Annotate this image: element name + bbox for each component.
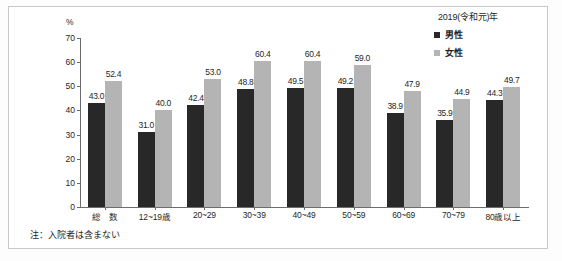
bar-value-label: 42.4 <box>188 93 203 103</box>
bar-pair: 38.947.9 <box>387 91 421 207</box>
bar-male[interactable]: 38.9 <box>387 113 404 207</box>
bar-value-label: 43.0 <box>89 91 104 101</box>
bar-pair: 31.040.0 <box>138 110 172 207</box>
x-axis-tick-label: 70~79 <box>442 210 465 220</box>
bar-group: 48.860.430~39 <box>229 38 279 207</box>
bar-male[interactable]: 31.0 <box>138 132 155 207</box>
bar-group: 49.259.050~59 <box>329 38 379 207</box>
bar-value-label: 60.4 <box>305 49 320 59</box>
bar-group: 49.560.440~49 <box>279 38 329 207</box>
y-axis-unit-label: % <box>66 17 74 27</box>
bar-female[interactable]: 53.0 <box>204 79 221 207</box>
legend-title: 2019(令和元)年 <box>408 10 528 23</box>
x-axis-tick-label: 20~29 <box>193 210 216 220</box>
y-axis-tick-mark <box>77 207 80 208</box>
bar-male[interactable]: 35.9 <box>436 120 453 207</box>
bar-male[interactable]: 44.3 <box>486 100 503 207</box>
x-axis-tick-label: 40~49 <box>293 210 316 220</box>
bar-male[interactable]: 49.5 <box>287 88 304 208</box>
chart-figure: 2019(令和元)年 男性女性 % 010203040506070 43.052… <box>0 0 562 261</box>
bar-value-label: 31.0 <box>139 120 154 130</box>
plot-area: 010203040506070 43.052.4総 数31.040.012~19… <box>80 38 528 207</box>
chart-note: 注：入院者は含まない <box>30 228 120 241</box>
bar-groups: 43.052.4総 数31.040.012~19歳42.453.020~2948… <box>80 38 528 207</box>
x-axis-tick-label: 50~59 <box>342 210 365 220</box>
bar-female[interactable]: 40.0 <box>155 110 172 207</box>
bar-male[interactable]: 42.4 <box>187 105 204 207</box>
bar-female[interactable]: 47.9 <box>404 91 421 207</box>
bar-group: 44.349.780歳以上 <box>478 38 528 207</box>
x-axis-tick-label: 12~19歳 <box>139 210 171 222</box>
bar-group: 31.040.012~19歳 <box>130 38 180 207</box>
bar-pair: 42.453.0 <box>187 79 221 207</box>
bar-pair: 49.560.4 <box>287 61 321 207</box>
bar-value-label: 52.4 <box>106 69 121 79</box>
bar-value-label: 59.0 <box>355 53 370 63</box>
bar-female[interactable]: 59.0 <box>354 65 371 207</box>
bar-value-label: 60.4 <box>255 49 270 59</box>
bar-female[interactable]: 49.7 <box>503 87 520 207</box>
bar-value-label: 49.2 <box>338 76 353 86</box>
bar-pair: 35.944.9 <box>436 99 470 207</box>
bar-value-label: 38.9 <box>387 101 402 111</box>
bar-value-label: 53.0 <box>205 67 220 77</box>
bar-group: 42.453.020~29 <box>180 38 230 207</box>
square-marker-icon <box>434 32 440 38</box>
bar-male[interactable]: 43.0 <box>88 103 105 207</box>
bar-pair: 43.052.4 <box>88 81 122 208</box>
x-axis-tick-label: 総 数 <box>92 210 118 222</box>
bar-value-label: 47.9 <box>404 79 419 89</box>
bar-female[interactable]: 44.9 <box>453 99 470 207</box>
bar-group: 35.944.970~79 <box>428 38 478 207</box>
bar-pair: 44.349.7 <box>486 87 520 207</box>
bar-value-label: 44.9 <box>454 87 469 97</box>
bar-pair: 49.259.0 <box>337 65 371 207</box>
bar-female[interactable]: 52.4 <box>105 81 122 208</box>
bar-female[interactable]: 60.4 <box>254 61 271 207</box>
bar-value-label: 40.0 <box>156 98 171 108</box>
x-axis-tick-label: 60~69 <box>392 210 415 220</box>
bar-female[interactable]: 60.4 <box>304 61 321 207</box>
bar-male[interactable]: 48.8 <box>237 89 254 207</box>
bar-value-label: 48.8 <box>238 77 253 87</box>
bar-value-label: 49.7 <box>504 75 519 85</box>
bar-group: 38.947.960~69 <box>379 38 429 207</box>
bar-group: 43.052.4総 数 <box>80 38 130 207</box>
x-axis-tick-label: 80歳以上 <box>485 210 520 222</box>
bar-male[interactable]: 49.2 <box>337 88 354 207</box>
bar-value-label: 44.3 <box>487 88 502 98</box>
bar-value-label: 49.5 <box>288 76 303 86</box>
bar-pair: 48.860.4 <box>237 61 271 207</box>
x-axis-tick-label: 30~39 <box>243 210 266 220</box>
bar-value-label: 35.9 <box>437 108 452 118</box>
